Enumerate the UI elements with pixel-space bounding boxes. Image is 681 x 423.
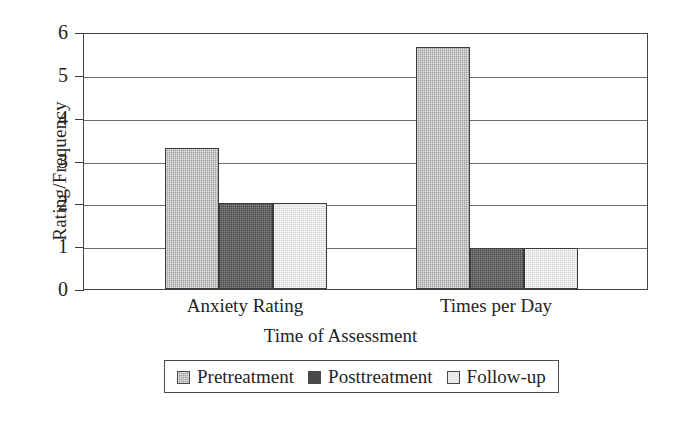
y-axis-tick [75,290,84,291]
legend-swatch-icon [308,371,321,384]
legend-item-label: Pretreatment [197,366,294,388]
legend-item-pre: Pretreatment [177,366,294,388]
bar-times-per-day-pretreatment [416,47,470,289]
y-axis-tick-label: 4 [40,108,68,128]
y-axis-tick-label: 0 [40,279,68,299]
x-axis-title: Time of Assessment [0,325,681,347]
gridline [84,120,647,121]
legend-item-post: Posttreatment [308,366,432,388]
y-axis-tick-label: 5 [40,65,68,85]
bar-anxiety-rating-pretreatment [165,148,219,289]
bar-anxiety-rating-posttreatment [219,203,273,289]
y-axis-tick-label: 1 [40,236,68,256]
x-axis-category-label: Anxiety Rating [135,295,355,317]
bar-times-per-day-posttreatment [470,248,524,289]
legend-item-label: Posttreatment [328,366,432,388]
legend-item-label: Follow-up [467,366,546,388]
chart-legend: PretreatmentPosttreatmentFollow-up [164,360,559,393]
legend-swatch-icon [447,371,460,384]
bar-anxiety-rating-follow-up [273,203,327,289]
bar-times-per-day-follow-up [524,248,578,289]
gridline [84,77,647,78]
y-axis-tick-label: 2 [40,193,68,213]
bar-chart-figure: Rating/Frequency 6543210 Anxiety RatingT… [0,0,681,423]
y-axis-tick-label: 6 [40,22,68,42]
legend-item-follow: Follow-up [447,366,546,388]
x-axis-category-label: Times per Day [386,295,606,317]
plot-area [83,33,648,290]
legend-swatch-icon [177,371,190,384]
y-axis-tick-label: 3 [40,151,68,171]
